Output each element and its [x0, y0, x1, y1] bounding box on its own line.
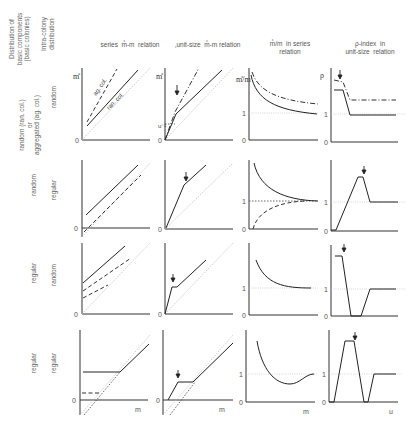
- svg-text:0: 0: [74, 311, 78, 318]
- svg-text:1: 1: [324, 286, 328, 293]
- diagram-grid: ag. col. ran. col. m̊ 0 m̊ 0 u⁻¹ m̊/m 1 …: [0, 0, 420, 438]
- panel-r3-ratio: 1 0: [242, 243, 318, 319]
- panel-r2-series: 0: [74, 160, 150, 237]
- svg-text:0: 0: [324, 139, 328, 146]
- svg-text:1: 1: [242, 110, 246, 117]
- svg-text:0: 0: [324, 228, 328, 235]
- panel-r4-unit-size: 0 m: [156, 330, 233, 415]
- svg-text:m: m: [303, 408, 309, 415]
- svg-text:0: 0: [322, 399, 326, 406]
- svg-text:0: 0: [158, 137, 162, 144]
- svg-text:0: 0: [75, 137, 79, 144]
- panel-r2-ratio: 1 0: [242, 160, 318, 233]
- panel-r1-rho: ρ 1 0: [320, 68, 406, 146]
- svg-text:0: 0: [72, 397, 76, 404]
- svg-text:0: 0: [239, 399, 243, 406]
- x-axis-u: u: [389, 408, 393, 415]
- panel-r1-series: ag. col. ran. col. m̊ 0: [73, 68, 150, 144]
- svg-text:ρ: ρ: [320, 71, 324, 80]
- svg-text:0: 0: [242, 312, 246, 319]
- svg-text:0: 0: [242, 137, 246, 144]
- panel-r2-rho: 1 0: [324, 160, 406, 235]
- svg-text:0: 0: [156, 397, 160, 404]
- svg-text:1: 1: [324, 111, 328, 118]
- svg-text:m: m: [219, 406, 225, 413]
- panel-r3-rho: 1 0: [324, 244, 406, 320]
- svg-text:0: 0: [158, 226, 162, 233]
- svg-text:m̊: m̊: [156, 72, 163, 81]
- svg-text:0: 0: [158, 311, 162, 318]
- label-ran-col: ran. col.: [105, 91, 125, 111]
- svg-text:1: 1: [324, 199, 328, 206]
- svg-text:1: 1: [322, 371, 326, 378]
- x-axis-m: m: [135, 406, 141, 413]
- svg-text:0: 0: [74, 225, 78, 232]
- panel-r1-ratio: m̊/m 1 0: [236, 68, 318, 144]
- svg-text:0: 0: [324, 313, 328, 320]
- panel-r4-ratio: 1 0 m: [239, 330, 318, 415]
- panel-r4-series: 0 m: [72, 330, 150, 415]
- svg-text:1: 1: [242, 285, 246, 292]
- panel-r4-rho: 1 0 u: [322, 330, 402, 415]
- panel-r2-unit-size: 0: [158, 160, 233, 233]
- panel-r3-unit-size: 0: [158, 243, 233, 318]
- y-axis-m-star: m̊: [73, 72, 80, 81]
- svg-text:1: 1: [242, 198, 246, 205]
- svg-text:0: 0: [242, 226, 246, 233]
- panel-r1-unit-size: m̊ 0 u⁻¹: [156, 68, 233, 144]
- svg-text:1: 1: [239, 371, 243, 378]
- label-u-inverse: u⁻¹: [158, 123, 166, 129]
- svg-text:m̊/m: m̊/m: [236, 75, 251, 84]
- panel-r3-series: 0: [74, 243, 150, 318]
- label-ag-col: ag. col.: [92, 77, 108, 97]
